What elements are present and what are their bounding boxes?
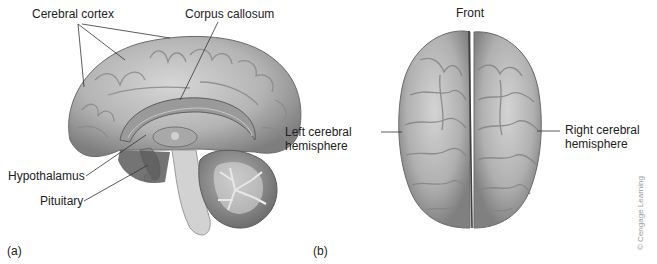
label-right-hemisphere-line1: Right cerebral	[565, 123, 640, 137]
panel-a-tag: (a)	[7, 244, 22, 258]
label-hypothalamus: Hypothalamus	[8, 169, 85, 183]
label-cerebral-cortex: Cerebral cortex	[32, 7, 114, 21]
superior-brain	[399, 31, 542, 228]
sagittal-brain	[69, 36, 301, 235]
label-left-hemisphere-line1: Left cerebral	[285, 125, 352, 139]
label-left-hemisphere: Left cerebral hemisphere	[285, 125, 352, 153]
label-right-hemisphere: Right cerebral hemisphere	[565, 123, 640, 151]
copyright-credit: © Cengage Learning	[636, 176, 645, 250]
label-corpus-callosum: Corpus callosum	[185, 7, 274, 21]
label-pituitary: Pituitary	[40, 194, 83, 208]
label-front: Front	[456, 6, 484, 20]
panel-b-tag: (b)	[313, 244, 328, 258]
label-left-hemisphere-line2: hemisphere	[285, 139, 352, 153]
label-right-hemisphere-line2: hemisphere	[565, 137, 640, 151]
